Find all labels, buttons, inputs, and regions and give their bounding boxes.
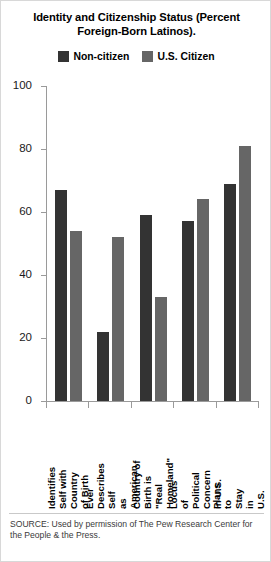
source-divider	[9, 513, 264, 514]
bar-group	[132, 86, 174, 401]
x-axis-tick	[131, 401, 132, 408]
bar-group	[47, 86, 89, 401]
x-axis-tick	[258, 401, 259, 408]
legend-label-us-citizen: U.S. Citizen	[157, 51, 214, 62]
x-axis-ticks	[46, 401, 259, 408]
legend-label-non-citizen: Non-citizen	[73, 51, 129, 62]
bar-us-citizen	[239, 146, 251, 401]
bar-group	[89, 86, 131, 401]
x-axis-label: Plans to Stay in U.S.	[210, 483, 265, 509]
legend-swatch-non-citizen	[58, 51, 69, 62]
bar-non-citizen	[140, 215, 152, 401]
x-axis-tick	[88, 401, 89, 408]
y-axis-tick-label: 100	[13, 78, 32, 93]
bar-us-citizen	[155, 297, 167, 401]
page-title: Identity and Citizenship Status (Percent…	[11, 11, 262, 38]
y-axis-tick-label: 60	[19, 204, 32, 219]
plot-area: 020406080100	[47, 86, 259, 401]
x-axis-label-cell: Ever Describes Self as American	[89, 409, 131, 509]
x-axis-tick	[216, 401, 217, 408]
bar-non-citizen	[224, 184, 236, 401]
bar-us-citizen	[70, 231, 82, 401]
source-note: SOURCE: Used by permission of The Pew Re…	[10, 519, 262, 541]
x-axis-tick	[46, 401, 47, 408]
y-axis-tick-label: 40	[19, 267, 32, 282]
legend: Non-citizen U.S. Citizen	[1, 51, 271, 62]
x-axis-tick	[173, 401, 174, 408]
bar-non-citizen	[182, 221, 194, 401]
x-axis-label-cell: Plans to Stay in U.S.	[217, 409, 259, 509]
legend-item-non-citizen: Non-citizen	[58, 51, 129, 62]
bar-non-citizen	[97, 332, 109, 401]
y-axis-tick-label: 0	[26, 393, 32, 408]
y-axis-tick-label: 20	[19, 330, 32, 345]
title-block: Identity and Citizenship Status (Percent…	[11, 11, 262, 38]
bar-group	[174, 86, 216, 401]
x-axis-labels: Identifies Self with Country of BirthEve…	[47, 409, 259, 509]
legend-item-us-citizen: U.S. Citizen	[142, 51, 214, 62]
bar-us-citizen	[197, 199, 209, 401]
legend-swatch-us-citizen	[142, 51, 153, 62]
chart-figure: Identity and Citizenship Status (Percent…	[0, 0, 271, 562]
bar-group	[217, 86, 259, 401]
y-axis-tick-label: 80	[19, 141, 32, 156]
bar-groups	[47, 86, 259, 401]
bar-non-citizen	[55, 190, 67, 401]
bar-us-citizen	[112, 237, 124, 401]
x-axis-label: Ever Describes Self as American	[83, 463, 138, 509]
